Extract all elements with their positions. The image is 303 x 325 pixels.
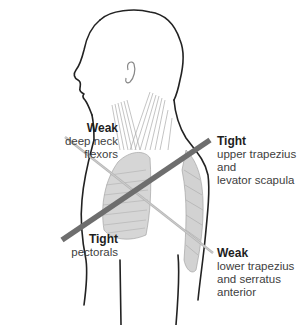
neck-muscles-icon <box>112 92 172 150</box>
upper-crossed-diagram: Weak deep neck flexors Tight upper trape… <box>0 0 303 325</box>
label-heading: Tight <box>217 135 296 148</box>
back-muscle-icon <box>182 150 203 272</box>
label-weak-deep-neck-flexors: Weak deep neck flexors <box>65 122 118 161</box>
label-text: pectorals <box>71 246 118 259</box>
label-tight-upper-trapezius: Tight upper trapezius and levator scapul… <box>217 135 296 187</box>
label-heading: Weak <box>217 247 294 260</box>
label-heading: Weak <box>65 122 118 135</box>
label-text: deep neck flexors <box>65 135 118 161</box>
label-tight-pectorals: Tight pectorals <box>71 233 118 259</box>
label-heading: Tight <box>71 233 118 246</box>
label-text: lower trapezius and serratus anterior <box>217 260 294 299</box>
label-text: upper trapezius and levator scapula <box>217 148 296 187</box>
label-weak-lower-trapezius: Weak lower trapezius and serratus anteri… <box>217 247 294 299</box>
ear-icon <box>126 62 135 83</box>
